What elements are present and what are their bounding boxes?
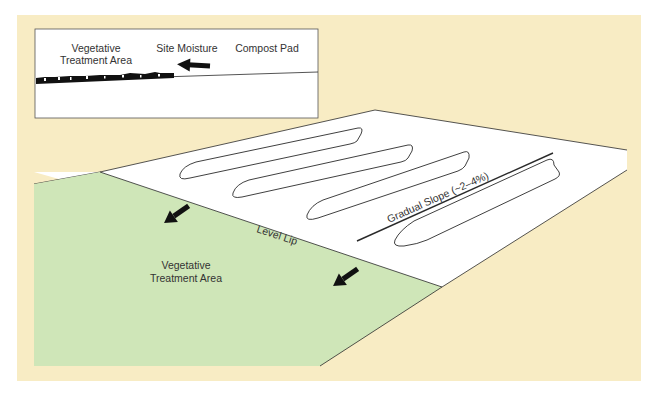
compost-pad-runoff-diagram: Level Lip Gradual Slope (~2–4%) Vegetati… — [0, 0, 658, 393]
inset-vta-label-line2: Treatment Area — [60, 54, 132, 66]
inset-compost-pad-label: Compost Pad — [235, 42, 299, 54]
vta-label-line2: Treatment Area — [150, 272, 222, 284]
inset-vta-label-line1: Vegetative — [71, 42, 120, 54]
inset-cross-section: Vegetative Treatment Area Site Moisture … — [35, 29, 318, 118]
inset-site-moisture-label: Site Moisture — [156, 42, 217, 54]
vta-label-line1: Vegetative — [161, 259, 210, 271]
